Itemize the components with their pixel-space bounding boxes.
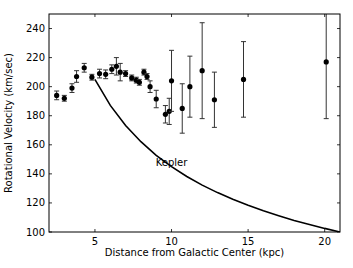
y-tick-label: 180 [26,110,45,121]
data-point [129,75,134,81]
y-tick-label: 100 [26,227,45,238]
marker [137,80,142,85]
data-point [82,63,87,72]
data-point [109,65,114,74]
y-tick-label: 220 [26,52,45,63]
marker [89,75,94,80]
marker [69,86,74,91]
data-point [163,106,168,123]
data-point [144,74,149,80]
kepler-annotation: Kepler [156,157,188,168]
data-point [62,95,67,101]
marker [144,74,149,79]
marker [62,96,67,101]
marker [180,106,185,111]
marker [109,67,114,72]
data-point [141,69,146,75]
y-axis-title: Rotational Velocity (km/sec) [3,53,14,193]
data-point [54,91,59,100]
plot-area [54,5,340,232]
axes: 5101520100120140160180200220240 [26,14,340,247]
marker [154,96,159,101]
data-point [187,56,192,117]
data-point [147,81,152,93]
x-tick-label: 15 [242,236,255,247]
data-point [74,71,79,83]
y-tick-label: 200 [26,81,45,92]
marker [187,84,192,89]
data-point [154,90,159,107]
marker [169,78,174,83]
data-point [241,42,246,118]
plot-frame [49,14,340,232]
data-point [324,5,329,118]
marker [147,84,152,89]
marker [123,71,128,76]
marker [241,77,246,82]
marker [74,74,79,79]
data-point [103,70,108,79]
y-tick-label: 160 [26,139,45,150]
marker [118,70,123,75]
marker [129,75,134,80]
x-tick-label: 10 [165,236,178,247]
marker [324,59,329,64]
data-point [200,23,205,119]
data-point [89,74,94,80]
x-axis-title: Distance from Galactic Center (kpc) [105,247,284,258]
marker [212,97,217,102]
data-point [212,72,217,127]
data-point [123,71,128,77]
marker [103,72,108,77]
y-tick-label: 240 [26,23,45,34]
data-point [97,69,102,78]
data-point [69,84,74,93]
kepler-curve [95,79,340,232]
y-tick-label: 120 [26,197,45,208]
marker [200,68,205,73]
marker [54,93,59,98]
data-point [180,84,185,133]
marker [114,64,119,69]
rotation-curve-chart: 5101520100120140160180200220240 Distance… [0,0,353,268]
y-tick-label: 140 [26,168,45,179]
x-tick-label: 20 [318,236,331,247]
marker [82,65,87,70]
x-tick-label: 5 [92,236,98,247]
marker [97,71,102,76]
